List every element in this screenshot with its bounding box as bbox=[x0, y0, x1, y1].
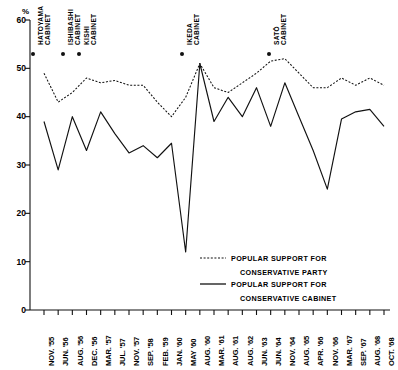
x-tick-label-23: AUG. '68 bbox=[373, 336, 382, 366]
cabinet-marker-dot-4 bbox=[267, 52, 271, 56]
cabinet-annotation-line: SATŌ bbox=[273, 14, 280, 45]
x-tick-label-3: DEC. '56 bbox=[90, 337, 99, 366]
x-tick-label-10: MAY '60 bbox=[189, 339, 198, 366]
x-tick-label-20: NOV. '66 bbox=[331, 337, 340, 366]
y-axis-ticks bbox=[25, 20, 30, 310]
cabinet-annotation-3: IKEDACABINET bbox=[186, 14, 201, 45]
x-tick-label-14: AUG. '62 bbox=[246, 336, 255, 366]
x-tick-label-4: MAR. '57 bbox=[104, 335, 113, 366]
x-tick-label-24: OCT. '68 bbox=[387, 338, 396, 367]
cabinet-annotation-0: HATOYAMACABINET bbox=[37, 6, 52, 45]
x-tick-label-21: MAR. '67 bbox=[345, 335, 354, 366]
cabinet-marker-dot-3 bbox=[180, 52, 184, 56]
x-tick-label-16: JUN. '64 bbox=[274, 338, 283, 367]
cabinet-annotation-line: CABINET bbox=[193, 14, 200, 45]
cabinet-marker-dot-0 bbox=[31, 52, 35, 56]
x-tick-label-13: AUG. '61 bbox=[231, 336, 240, 366]
x-tick-label-15: JUN. '63 bbox=[260, 338, 269, 367]
x-tick-label-1: JUN. '56 bbox=[61, 338, 70, 367]
series-line-conservative-party bbox=[44, 59, 384, 117]
x-tick-label-19: APR. '66 bbox=[316, 337, 325, 366]
x-tick-label-17: NOV. '64 bbox=[288, 337, 297, 366]
x-axis-ticks bbox=[44, 310, 384, 315]
cabinet-marker-dot-2 bbox=[77, 52, 81, 56]
chart-container: % 60 50 40 30 20 10 0 POPULAR SUPPORT FO… bbox=[0, 0, 398, 370]
x-tick-label-18: AUG. '65 bbox=[302, 336, 311, 366]
cabinet-annotation-4: SATŌCABINET bbox=[273, 14, 288, 45]
legend-label-cabinet-line2: CONSERVATIVE CABINET bbox=[240, 294, 336, 303]
cabinet-marker-dot-1 bbox=[61, 52, 65, 56]
cabinet-annotation-line: CABINET bbox=[44, 6, 51, 45]
x-tick-label-0: NOV. '55 bbox=[47, 337, 56, 366]
x-tick-label-6: NOV. '57 bbox=[132, 337, 141, 366]
x-tick-label-22: SEP. '67 bbox=[359, 338, 368, 366]
x-tick-label-9: JAN. '60 bbox=[175, 338, 184, 367]
legend-label-cabinet-line1: POPULAR SUPPORT FOR bbox=[231, 280, 327, 289]
cabinet-annotation-line: IKEDA bbox=[186, 14, 193, 45]
chart-plot-area bbox=[0, 0, 398, 370]
cabinet-annotation-line: CABINET bbox=[280, 14, 287, 45]
series-line-conservative-cabinet bbox=[44, 64, 384, 253]
x-tick-label-11: AUG. '60 bbox=[203, 336, 212, 366]
cabinet-annotation-line: ISHIBASHI bbox=[67, 9, 74, 45]
x-tick-label-2: AUG. '56 bbox=[76, 336, 85, 366]
x-tick-label-7: SEP. '58 bbox=[146, 338, 155, 366]
legend-label-party-line2: CONSERVATIVE PARTY bbox=[240, 268, 328, 277]
cabinet-annotation-2: KISHICABINET bbox=[83, 14, 98, 45]
cabinet-annotation-line: HATOYAMA bbox=[37, 6, 44, 45]
legend-label-party-line1: POPULAR SUPPORT FOR bbox=[231, 254, 327, 263]
x-tick-label-12: MAR. '61 bbox=[217, 335, 226, 366]
cabinet-annotation-1: ISHIBASHICABINET bbox=[67, 9, 82, 45]
cabinet-annotation-line: CABINET bbox=[90, 14, 97, 45]
cabinet-marker-dots bbox=[31, 52, 271, 56]
x-tick-label-8: FEB. '59 bbox=[161, 338, 170, 367]
cabinet-annotation-line: CABINET bbox=[74, 9, 81, 45]
x-tick-label-5: JUL. '57 bbox=[118, 338, 127, 366]
cabinet-annotation-line: KISHI bbox=[83, 14, 90, 45]
